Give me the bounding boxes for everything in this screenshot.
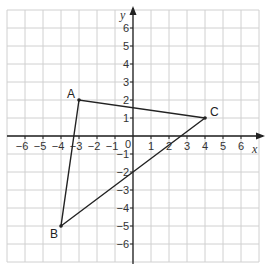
point-label-c: C xyxy=(210,105,219,119)
y-tick-label: −4 xyxy=(116,202,129,214)
x-tick-label: −4 xyxy=(52,140,65,152)
axes xyxy=(7,6,265,264)
x-tick-label: −5 xyxy=(34,140,47,152)
y-tick-label: 1 xyxy=(123,112,129,124)
y-tick-label: 2 xyxy=(123,94,129,106)
y-tick-label: −3 xyxy=(116,184,129,196)
x-axis-label: x xyxy=(251,142,258,156)
y-tick-label: 3 xyxy=(123,76,129,88)
point-a xyxy=(77,98,81,102)
y-axis-label: y xyxy=(119,8,126,22)
point-b xyxy=(59,224,63,228)
x-tick-label: 4 xyxy=(202,140,208,152)
x-tick-label: 6 xyxy=(238,140,244,152)
triangle-abc: ABC xyxy=(50,87,219,241)
x-axis-arrow-icon xyxy=(256,133,265,140)
point-label-b: B xyxy=(50,227,58,241)
y-tick-label: 5 xyxy=(123,40,129,52)
y-tick-label: 6 xyxy=(123,22,129,34)
coordinate-grid: −6−5−4−3−2−1123456−6−5−4−3−2−11234560 AB… xyxy=(0,0,265,264)
y-tick-label: −6 xyxy=(116,238,129,250)
x-tick-label: 3 xyxy=(184,140,190,152)
x-tick-label: −6 xyxy=(16,140,29,152)
y-tick-label: −5 xyxy=(116,220,129,232)
x-tick-label: −2 xyxy=(88,140,101,152)
point-label-a: A xyxy=(67,87,75,101)
origin-label: 0 xyxy=(125,138,131,150)
y-tick-label: 4 xyxy=(123,58,129,70)
point-c xyxy=(203,116,207,120)
x-tick-label: 1 xyxy=(148,140,154,152)
x-tick-label: 5 xyxy=(220,140,226,152)
